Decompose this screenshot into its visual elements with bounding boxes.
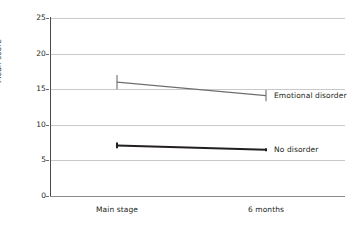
series-line-0 <box>117 82 266 96</box>
series-line-1 <box>117 145 266 149</box>
chart-container: 25 20 15 10 5 0 Mean score Main stage 6 … <box>0 0 355 234</box>
series-layer <box>0 0 355 234</box>
series-label-emotional-disorder: Emotional disorder <box>274 91 347 100</box>
series-label-no-disorder: No disorder <box>274 145 318 154</box>
